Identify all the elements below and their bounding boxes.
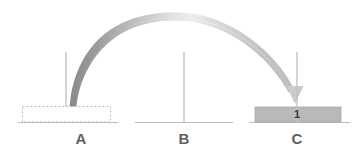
peg-label-a: A bbox=[61, 131, 101, 146]
tower-of-hanoi-diagram: 1 A B C bbox=[0, 0, 361, 157]
peg-b[interactable] bbox=[135, 52, 233, 123]
peg-a[interactable] bbox=[18, 52, 118, 123]
peg-label-b: B bbox=[164, 131, 204, 146]
peg-a-ghost-disk bbox=[23, 107, 111, 123]
peg-label-c: C bbox=[277, 131, 317, 146]
disk-number-label: 1 bbox=[287, 109, 307, 120]
